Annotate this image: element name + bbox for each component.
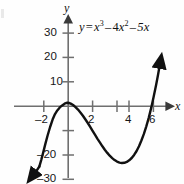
equation-operator-2: – bbox=[129, 20, 137, 34]
y-axis-label: y bbox=[64, 2, 69, 14]
y-tick-label-neg30: –30 bbox=[37, 173, 56, 184]
x-tick-label-2: 2 bbox=[88, 114, 94, 126]
y-tick-label-10: 10 bbox=[50, 76, 63, 88]
x-tick-label-neg2: –2 bbox=[35, 114, 48, 126]
equation-annotation: y=x3–4x2–5x bbox=[79, 21, 149, 34]
x-tick-label-4: 4 bbox=[125, 114, 131, 126]
x-axis-label: x bbox=[175, 100, 180, 112]
y-tick-label-20: 20 bbox=[44, 51, 57, 63]
x-tick-label-6: 6 bbox=[149, 114, 155, 126]
equation-term3: 5x bbox=[137, 20, 149, 34]
y-tick-label-30: 30 bbox=[44, 27, 57, 39]
graph-figure: y=x3–4x2–5x y x 30 20 10 –20 –30 –2 2 4 … bbox=[0, 0, 184, 184]
equation-equals: = bbox=[85, 20, 94, 34]
y-tick-label-neg20: –20 bbox=[37, 149, 56, 161]
equation-lhs: y bbox=[79, 20, 85, 34]
